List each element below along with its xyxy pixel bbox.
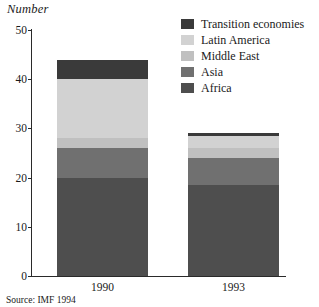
- legend-item[interactable]: Asia: [181, 64, 304, 80]
- y-axis-tick-label: 20: [16, 172, 28, 184]
- bar-1990[interactable]: [57, 60, 148, 276]
- y-axis-tick-label: 40: [16, 73, 28, 85]
- legend-item-label: Middle East: [201, 50, 259, 62]
- bar-segment[interactable]: [188, 148, 279, 158]
- legend-swatch-icon: [181, 35, 194, 45]
- y-axis-ticks: 01020304050: [0, 0, 27, 307]
- legend-item-label: Latin America: [201, 34, 270, 46]
- source-note: Source: IMF 1994: [6, 295, 76, 307]
- legend-swatch-icon: [181, 19, 194, 29]
- legend-item[interactable]: Transition economies: [181, 16, 304, 32]
- y-axis-tick-label: 0: [21, 270, 27, 282]
- y-axis-tick-label: 10: [16, 221, 28, 233]
- bar-1993[interactable]: [188, 133, 279, 276]
- legend-item-label: Transition economies: [201, 18, 304, 30]
- bar-segment[interactable]: [57, 138, 148, 148]
- bar-segment[interactable]: [188, 185, 279, 276]
- legend-swatch-icon: [181, 51, 194, 61]
- legend-item-label: Africa: [201, 82, 232, 94]
- legend-swatch-icon: [181, 67, 194, 77]
- stacked-bar-chart: Number 01020304050 Transition economiesL…: [0, 0, 319, 307]
- legend-item[interactable]: Middle East: [181, 48, 304, 64]
- bar-segment[interactable]: [57, 79, 148, 138]
- bar-segment[interactable]: [188, 158, 279, 185]
- x-axis-tick-label: 1993: [188, 281, 279, 293]
- x-axis-line: [31, 276, 286, 277]
- y-axis-tick-mark: [28, 276, 31, 277]
- legend-swatch-icon: [181, 83, 194, 93]
- bar-segment[interactable]: [188, 136, 279, 148]
- y-axis-tick-label: 50: [16, 24, 28, 36]
- legend-item[interactable]: Africa: [181, 80, 304, 96]
- y-axis-tick-label: 30: [16, 122, 28, 134]
- legend-item[interactable]: Latin America: [181, 32, 304, 48]
- chart-legend: Transition economiesLatin AmericaMiddle …: [181, 16, 304, 96]
- x-axis-tick-label: 1990: [57, 281, 148, 293]
- bar-segment[interactable]: [57, 148, 148, 178]
- legend-item-label: Asia: [201, 66, 223, 78]
- bar-segment[interactable]: [57, 178, 148, 276]
- bar-segment[interactable]: [57, 60, 148, 80]
